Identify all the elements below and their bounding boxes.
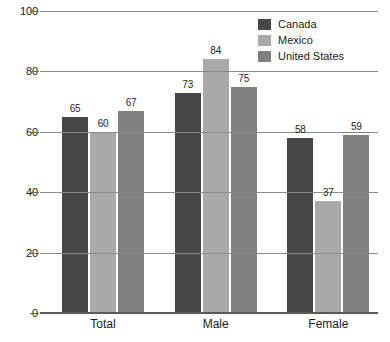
bar[interactable] (175, 93, 201, 313)
y-tick-mark (30, 11, 39, 12)
y-tick-mark (30, 132, 39, 133)
chart-legend: CanadaMexicoUnited States (258, 17, 344, 65)
bar-value-label: 37 (308, 188, 348, 198)
y-tick-mark (30, 253, 39, 254)
bar-value-label: 60 (83, 119, 123, 129)
bar[interactable] (62, 117, 88, 313)
bar[interactable] (118, 111, 144, 313)
gridline-100 (40, 11, 378, 12)
x-category-label: Total (42, 318, 164, 330)
bar[interactable] (203, 59, 229, 313)
gridline-80 (40, 71, 378, 72)
y-tick-mark (30, 71, 39, 72)
bar-value-label: 84 (196, 46, 236, 56)
bar-value-label: 59 (336, 122, 376, 132)
y-tick-mark (30, 192, 39, 193)
bar-chart: 020406080100 TotalMaleFemale CanadaMexic… (0, 0, 390, 342)
gridline-60 (40, 132, 378, 133)
bar-value-label: 75 (224, 74, 264, 84)
gridline-20 (40, 253, 378, 254)
legend-item[interactable]: Mexico (258, 33, 344, 48)
bar-value-label: 65 (55, 104, 95, 114)
bar[interactable] (287, 138, 313, 313)
x-category-label: Male (155, 318, 277, 330)
legend-item[interactable]: United States (258, 49, 344, 64)
legend-swatch-icon (258, 19, 271, 30)
legend-label: United States (278, 51, 344, 62)
y-tick-mark (30, 313, 39, 314)
legend-swatch-icon (258, 51, 271, 62)
bar-value-label: 67 (111, 98, 151, 108)
bar[interactable] (343, 135, 369, 313)
legend-label: Mexico (278, 35, 313, 46)
bar[interactable] (315, 201, 341, 313)
bar[interactable] (231, 87, 257, 314)
legend-swatch-icon (258, 35, 271, 46)
axis-baseline (40, 312, 378, 314)
legend-label: Canada (278, 19, 317, 30)
legend-item[interactable]: Canada (258, 17, 344, 32)
bar-value-label: 73 (168, 80, 208, 90)
x-category-label: Female (267, 318, 389, 330)
bar-value-label: 58 (280, 125, 320, 135)
bar[interactable] (90, 132, 116, 313)
